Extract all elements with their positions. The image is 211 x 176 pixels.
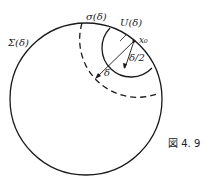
sigma-small-label: σ(δ) <box>86 12 107 22</box>
half-delta-label: δ/2 <box>129 53 145 63</box>
sigma-big-label: Σ(δ) <box>8 38 29 48</box>
sigma-circle <box>10 23 162 175</box>
delta-label: δ <box>104 68 110 78</box>
u-label: U(δ) <box>120 18 142 28</box>
diagram-canvas <box>0 0 211 176</box>
figure-caption: 図 4. 9 <box>168 139 200 149</box>
half-delta-arrowhead <box>123 63 127 69</box>
u-leader-line <box>120 34 127 41</box>
x0-label: x₀ <box>139 36 148 45</box>
